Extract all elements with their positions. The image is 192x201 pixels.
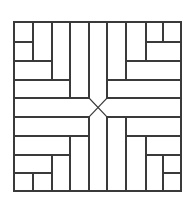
parquet-pattern-svg: [0, 0, 192, 201]
parquet-diagram: [0, 0, 192, 201]
